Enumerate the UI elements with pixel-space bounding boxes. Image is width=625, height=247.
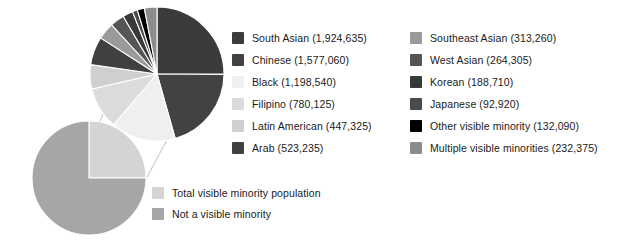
legend-label-multiple-visible-minorities: Multiple visible minorities (232,375)	[430, 142, 598, 154]
legend-label-black: Black (1,198,540)	[252, 76, 336, 88]
legend-swatch-not-a-visible-minority	[152, 208, 164, 220]
legend-item-total-visible-minority-population[interactable]: Total visible minority population	[152, 182, 321, 203]
overview-pie	[32, 121, 146, 235]
legend-item-filipino[interactable]: Filipino (780,125)	[232, 93, 372, 115]
legend-label-other-visible-minority: Other visible minority (132,090)	[430, 120, 579, 132]
legend-swatch-total-visible-minority-population	[152, 187, 164, 199]
legend-swatch-arab	[232, 142, 244, 154]
legend-item-chinese[interactable]: Chinese (1,577,060)	[232, 49, 372, 71]
legend-label-chinese: Chinese (1,577,060)	[252, 54, 349, 66]
legend-swatch-south-asian	[232, 32, 244, 44]
legend-label-not-a-visible-minority: Not a visible minority	[172, 208, 271, 220]
legend-item-black[interactable]: Black (1,198,540)	[232, 71, 372, 93]
legend-item-multiple-visible-minorities[interactable]: Multiple visible minorities (232,375)	[410, 137, 598, 159]
legend-label-south-asian: South Asian (1,924,635)	[252, 32, 367, 44]
legend-swatch-filipino	[232, 98, 244, 110]
pie-of-pie-chart: South Asian (1,924,635)Chinese (1,577,06…	[0, 0, 625, 247]
legend-swatch-other-visible-minority	[410, 120, 422, 132]
legend-item-west-asian[interactable]: West Asian (264,305)	[410, 49, 598, 71]
legend-column-overview: Total visible minority populationNot a v…	[152, 182, 321, 224]
legend-item-korean[interactable]: Korean (188,710)	[410, 71, 598, 93]
legend-swatch-chinese	[232, 54, 244, 66]
detail-slice-south-asian[interactable]	[157, 7, 224, 74]
legend-label-filipino: Filipino (780,125)	[252, 98, 335, 110]
legend-swatch-black	[232, 76, 244, 88]
legend-item-other-visible-minority[interactable]: Other visible minority (132,090)	[410, 115, 598, 137]
legend-swatch-southeast-asian	[410, 32, 422, 44]
legend-label-arab: Arab (523,235)	[252, 142, 323, 154]
legend-label-total-visible-minority-population: Total visible minority population	[172, 187, 321, 199]
legend-swatch-latin-american	[232, 120, 244, 132]
legend-swatch-korean	[410, 76, 422, 88]
detail-pie	[90, 7, 224, 141]
legend-item-arab[interactable]: Arab (523,235)	[232, 137, 372, 159]
legend-swatch-multiple-visible-minorities	[410, 142, 422, 154]
legend-label-korean: Korean (188,710)	[430, 76, 513, 88]
legend-item-latin-american[interactable]: Latin American (447,325)	[232, 115, 372, 137]
legend-label-southeast-asian: Southeast Asian (313,260)	[430, 32, 556, 44]
legend-label-japanese: Japanese (92,920)	[430, 98, 519, 110]
legend-column-primary: South Asian (1,924,635)Chinese (1,577,06…	[232, 27, 372, 159]
legend-label-latin-american: Latin American (447,325)	[252, 120, 372, 132]
legend-item-southeast-asian[interactable]: Southeast Asian (313,260)	[410, 27, 598, 49]
legend-label-west-asian: West Asian (264,305)	[430, 54, 532, 66]
legend-item-not-a-visible-minority[interactable]: Not a visible minority	[152, 203, 321, 224]
legend-column-secondary: Southeast Asian (313,260)West Asian (264…	[410, 27, 598, 159]
legend-swatch-west-asian	[410, 54, 422, 66]
legend-item-south-asian[interactable]: South Asian (1,924,635)	[232, 27, 372, 49]
legend-item-japanese[interactable]: Japanese (92,920)	[410, 93, 598, 115]
legend-swatch-japanese	[410, 98, 422, 110]
